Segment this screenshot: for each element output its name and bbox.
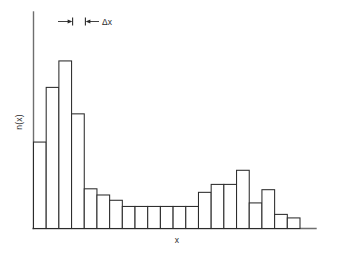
histogram-bar [249,203,262,229]
histogram-bar [160,206,173,228]
histogram-bar [237,170,250,228]
delta-x-label: Δx [102,17,113,27]
histogram-bar [198,192,211,228]
histogram-bar [122,206,135,228]
histogram-bar [72,114,85,229]
histogram-bar [97,195,110,229]
histogram-bar [211,184,224,228]
histogram-bar [110,200,123,228]
histogram-bar [135,206,148,228]
delta-x-annotation: Δx [58,17,113,27]
histogram-figure: Δx n(x) x [0,0,339,254]
histogram-bar [262,190,275,229]
bars-group [34,61,301,229]
arrow-right-icon [68,19,73,23]
histogram-bar [287,218,300,229]
histogram-bar [46,87,59,228]
histogram-plot: Δx n(x) x [0,0,339,254]
histogram-bar [84,189,97,229]
histogram-bar [148,206,161,228]
histogram-bar [34,142,47,228]
histogram-bar [275,214,288,228]
histogram-bar [186,206,199,228]
x-axis-label: x [175,235,180,245]
histogram-bar [224,184,237,228]
arrow-left-icon [86,19,91,23]
y-axis-label: n(x) [14,114,24,129]
histogram-bar [59,61,72,229]
histogram-bar [173,206,186,228]
